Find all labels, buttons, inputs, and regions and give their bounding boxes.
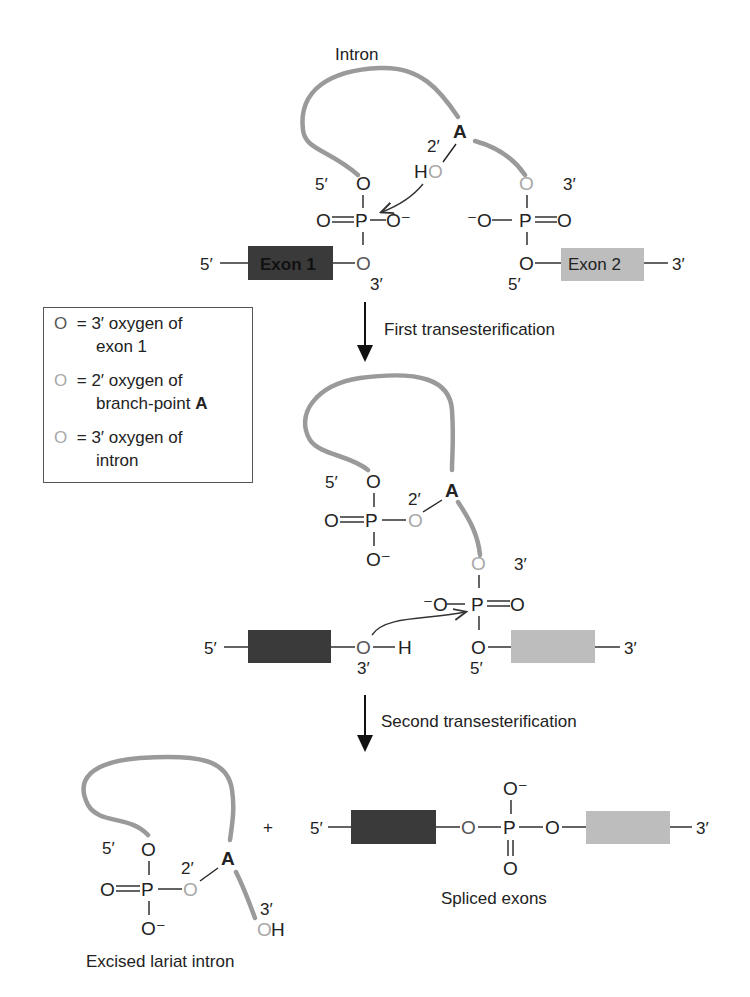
exon-2-label: Exon 2 (568, 255, 621, 274)
legend: O = 3′ oxygen of exon 1 O = 2′ oxygen of… (43, 307, 253, 483)
svg-text:5′: 5′ (508, 275, 521, 294)
svg-text:O: O (141, 839, 156, 860)
exon-2-box-middle (511, 630, 595, 663)
svg-text:3′: 3′ (357, 659, 370, 678)
svg-text:O: O (356, 173, 371, 194)
svg-text:O: O (519, 253, 534, 274)
first-transesterification-label: First transesterification (384, 320, 555, 339)
svg-text:A: A (445, 480, 459, 501)
svg-text:O: O (461, 817, 476, 838)
legend-item-branch-oxygen: O = 2′ oxygen of branch-point A (54, 369, 208, 415)
svg-text:O: O (100, 879, 115, 900)
intron-3prime-oxygen: O (519, 173, 534, 194)
svg-text:5′: 5′ (102, 839, 115, 858)
spliced-exons: 5′ O P O 3′ O⁻ O Spliced exons (310, 778, 709, 908)
step-arrow-first: First transesterification (357, 302, 555, 362)
exon-1-label: Exon 1 (260, 255, 316, 274)
legend-item-exon1-oxygen: O = 3′ oxygen of exon 1 (54, 312, 182, 358)
svg-text:O: O (557, 210, 572, 231)
plus-sign: + (263, 818, 273, 837)
svg-text:O: O (545, 817, 560, 838)
oxygen-symbol-dark: O (54, 312, 72, 335)
svg-text:O: O (324, 510, 339, 531)
svg-text:3′: 3′ (260, 900, 273, 919)
nucleophilic-attack-arrow (382, 184, 423, 212)
svg-text:3′: 3′ (563, 175, 576, 194)
svg-text:O: O (471, 553, 486, 574)
lariat-caption: Excised lariat intron (86, 952, 234, 971)
label-2prime: 2′ (427, 137, 440, 156)
svg-text:P: P (141, 879, 154, 900)
svg-text:H: H (398, 637, 412, 658)
spliced-caption: Spliced exons (441, 889, 547, 908)
svg-text:O: O (316, 210, 331, 231)
svg-text:5′: 5′ (325, 473, 338, 492)
branch-point-a: A (453, 121, 467, 142)
exon-1-box-spliced (351, 810, 436, 844)
svg-text:O: O (183, 879, 198, 900)
intron-strand (302, 68, 458, 175)
svg-text:O: O (510, 594, 525, 615)
svg-text:5′: 5′ (204, 639, 217, 658)
svg-text:P: P (471, 594, 484, 615)
oxygen-symbol-light: O (54, 369, 72, 392)
excised-lariat: 5′ O O P O 2′ A O⁻ 3′ O H Excised lariat… (84, 757, 285, 971)
svg-text:O⁻: O⁻ (503, 778, 528, 799)
svg-text:5′: 5′ (200, 255, 213, 274)
svg-text:O⁻: O⁻ (141, 918, 166, 939)
second-attack-arrow (372, 612, 465, 635)
svg-text:P: P (365, 510, 378, 531)
exon-1-box-middle (248, 630, 331, 663)
label-5prime: 5′ (315, 175, 328, 194)
svg-text:O⁻: O⁻ (366, 549, 391, 570)
svg-text:3′: 3′ (624, 639, 637, 658)
oxygen-symbol-light: O (54, 426, 72, 449)
svg-text:3′: 3′ (370, 275, 383, 294)
splicing-diagram: Intron A 2′ H O 5′ O O P O⁻ 5′ Exon 1 O … (0, 0, 750, 997)
exon-2-box-spliced (586, 811, 670, 844)
svg-text:A: A (221, 848, 235, 869)
svg-text:O: O (366, 471, 381, 492)
svg-text:O⁻: O⁻ (386, 210, 411, 231)
svg-text:O: O (408, 510, 423, 531)
lariat-intermediate: 5′ O O P O 2′ A O⁻ O 3′ ⁻O P O O 5′ 3′ 5… (204, 375, 637, 678)
second-transesterification-label: Second transesterification (381, 712, 577, 731)
step-arrow-second: Second transesterification (357, 695, 577, 752)
svg-text:O: O (471, 637, 486, 658)
svg-text:5′: 5′ (310, 819, 323, 838)
svg-text:O: O (356, 637, 371, 658)
pre-mrna-structure: Intron A 2′ H O 5′ O O P O⁻ 5′ Exon 1 O … (200, 45, 685, 294)
svg-text:H: H (271, 919, 285, 940)
intron-label: Intron (335, 45, 378, 64)
svg-text:P: P (503, 817, 516, 838)
intron-strand-3prime (475, 141, 525, 175)
legend-item-intron-oxygen: O = 3′ oxygen of intron (54, 426, 182, 472)
svg-text:⁻O: ⁻O (423, 594, 448, 615)
h-atom: H (414, 161, 428, 182)
svg-text:3′: 3′ (514, 555, 527, 574)
phosphorus: P (355, 210, 368, 231)
svg-text:3′: 3′ (672, 255, 685, 274)
exon1-3prime-oxygen: O (356, 253, 371, 274)
svg-text:O: O (257, 919, 272, 940)
svg-text:O: O (503, 858, 518, 879)
svg-text:⁻O: ⁻O (467, 210, 492, 231)
svg-text:2′: 2′ (408, 490, 421, 509)
svg-text:3′: 3′ (696, 819, 709, 838)
svg-text:P: P (519, 210, 532, 231)
branch-oxygen: O (428, 161, 443, 182)
svg-text:2′: 2′ (181, 859, 194, 878)
svg-text:5′: 5′ (470, 659, 483, 678)
